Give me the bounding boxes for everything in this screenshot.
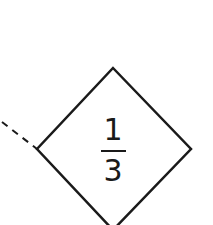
dashed-connector-line [2,122,37,149]
fraction-label: 1 3 [93,112,133,188]
fraction-bar [101,150,126,152]
fraction-numerator: 1 [103,115,122,145]
diagram-canvas: 1 3 [0,0,213,225]
fraction-denominator: 3 [103,156,122,186]
